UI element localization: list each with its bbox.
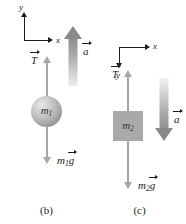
weight-label-m2g: m2g <box>138 180 155 193</box>
weight-arrow-shaft <box>127 140 129 183</box>
body-label-m1: m1 <box>41 105 53 118</box>
tension-arrowhead-up-icon <box>124 70 132 77</box>
acceleration-arrowhead-up-icon <box>64 26 82 39</box>
x-axis-label: x <box>153 42 157 51</box>
weight-label-m1g: m1g <box>57 155 74 168</box>
acceleration-arrow-c <box>155 78 173 141</box>
panel-c: x y T m2 m2g a <box>93 0 186 224</box>
panel-caption-c: (c) <box>93 205 186 216</box>
acceleration-arrow-shaft <box>160 78 169 129</box>
x-axis-line <box>24 40 48 41</box>
acceleration-label-c: a <box>174 114 180 125</box>
physics-free-body-diagram-figure: y x T m1 m1g a <box>0 0 186 224</box>
panel-b: y x T m1 m1g a <box>0 0 93 224</box>
tension-label-c: T <box>112 69 118 80</box>
y-axis-line <box>119 47 120 64</box>
body-block-m2: m2 <box>113 111 143 141</box>
x-axis-arrowhead-right-icon <box>145 44 150 50</box>
tension-arrowhead-up-icon <box>43 56 51 63</box>
y-axis-label: y <box>19 3 23 12</box>
y-axis-line <box>24 17 25 41</box>
y-axis-arrowhead-up-icon <box>21 12 27 17</box>
x-axis-line <box>119 47 145 48</box>
body-sphere-m1: m1 <box>31 96 62 127</box>
acceleration-arrow-shaft <box>69 38 78 86</box>
body-label-m2: m2 <box>122 120 134 133</box>
weight-arrow-shaft <box>46 126 48 158</box>
acceleration-label-b: a <box>83 46 89 57</box>
weight-arrowhead-down-icon <box>43 157 51 164</box>
acceleration-arrow-b <box>64 26 82 86</box>
x-axis-label: x <box>56 36 60 45</box>
tension-label-b: T <box>31 55 37 66</box>
acceleration-arrowhead-down-icon <box>155 128 173 141</box>
x-axis-arrowhead-right-icon <box>48 37 53 43</box>
panel-caption-b: (b) <box>0 205 93 216</box>
weight-arrowhead-down-icon <box>124 182 132 189</box>
tension-arrow-shaft <box>127 76 129 116</box>
